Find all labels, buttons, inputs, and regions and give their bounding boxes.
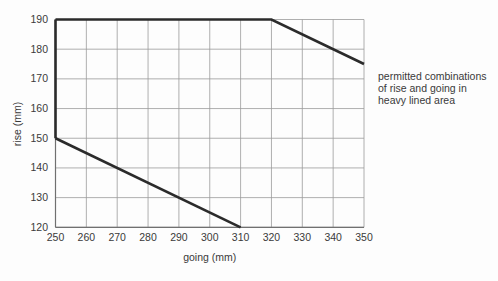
x-tick-label: 330 — [294, 231, 312, 243]
x-tick-label: 270 — [108, 231, 126, 243]
y-tick-label: 130 — [30, 191, 48, 203]
y-tick-label: 180 — [30, 43, 48, 55]
x-tick-label: 250 — [47, 231, 65, 243]
x-tick-label: 310 — [232, 231, 250, 243]
annotation-line: heavy lined area — [378, 95, 487, 107]
rise-going-chart: 2502602702802903003103203303403501201301… — [0, 0, 498, 281]
chart-annotation: permitted combinations of rise and going… — [378, 71, 487, 106]
y-tick-label: 140 — [30, 161, 48, 173]
x-tick-label: 300 — [201, 231, 219, 243]
y-tick-label: 190 — [30, 13, 48, 25]
x-axis-title: going (mm) — [183, 251, 236, 263]
chart-figure: 2502602702802903003103203303403501201301… — [0, 0, 498, 281]
y-tick-label: 160 — [30, 102, 48, 114]
x-tick-label: 340 — [324, 231, 342, 243]
x-tick-label: 280 — [139, 231, 157, 243]
x-tick-label: 320 — [263, 231, 281, 243]
y-tick-label: 150 — [30, 132, 48, 144]
x-tick-label: 290 — [170, 231, 188, 243]
y-axis-title: rise (mm) — [11, 102, 23, 146]
x-tick-label: 350 — [355, 231, 373, 243]
y-tick-label: 120 — [30, 221, 48, 233]
annotation-line: of rise and going in — [378, 83, 487, 95]
y-tick-label: 170 — [30, 72, 48, 84]
x-tick-label: 260 — [78, 231, 96, 243]
